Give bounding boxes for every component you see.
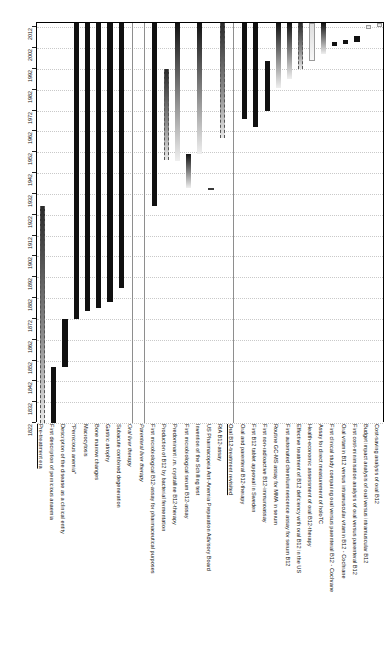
year-tick-label: 1922 — [27, 216, 33, 228]
timeline-bar — [377, 23, 382, 27]
timeline-bar — [85, 23, 90, 311]
year-tick-label-wrap: 1952 — [0, 151, 32, 152]
year-tick-label-wrap: 1942 — [0, 172, 32, 173]
year-tick — [32, 339, 36, 340]
year-tick — [32, 68, 36, 69]
timeline-bar — [220, 23, 225, 138]
year-tick-label-wrap: 1902 — [0, 255, 32, 256]
timeline-bar — [119, 23, 124, 288]
timeline-bar — [186, 154, 191, 187]
gridline — [37, 319, 383, 320]
year-tick-label-wrap: 1832 — [0, 401, 32, 402]
year-tick-label: 2012 — [27, 28, 33, 40]
row-label: Assay for direct measurement of holoTC — [318, 424, 324, 524]
row-label: Oral and parenteral B12-therapy — [240, 424, 246, 504]
timeline-bar — [62, 319, 67, 367]
timeline-bar — [208, 188, 213, 190]
timeline-bar — [175, 23, 180, 161]
year-tick — [32, 26, 36, 27]
year-tick-label: 1822 — [27, 424, 33, 436]
year-tick-label-wrap: 1882 — [0, 297, 32, 298]
timeline-bar — [74, 23, 79, 319]
year-tick-label-wrap: 1862 — [0, 339, 32, 340]
year-tick-label: 1852 — [27, 362, 33, 374]
row-label: Production of B12 by bacterial fermentat… — [161, 424, 167, 531]
year-tick-label-wrap: 1872 — [0, 318, 32, 319]
year-tick-label-wrap: 1852 — [0, 360, 32, 361]
row-label: First microbiological serum B12-assay — [184, 424, 190, 519]
row-label: Invention of the Schilling test — [195, 424, 201, 495]
year-tick-label-wrap: 1932 — [0, 193, 32, 194]
era-separator — [233, 23, 234, 423]
row-label: Subacute combined degeneration — [116, 424, 122, 508]
timeline-bar — [309, 23, 314, 61]
year-tick-label: 1892 — [27, 278, 33, 290]
year-tick-label: 1842 — [27, 382, 33, 394]
year-tick — [32, 172, 36, 173]
timeline-bar — [152, 23, 157, 206]
year-tick-label: 1972 — [27, 112, 33, 124]
row-label: Predominant i.m. crystalline B12-therapy — [172, 424, 178, 525]
row-label: First description of pernicious anaemia — [49, 424, 55, 520]
year-tick-label: 2002 — [27, 49, 33, 61]
row-label: First non-radioactive B12-immunoassay — [262, 424, 268, 523]
row-labels: Pre-treatment eraFirst description of pe… — [36, 424, 384, 646]
year-tick-label: 1902 — [27, 257, 33, 269]
year-tick-label-wrap: 1842 — [0, 380, 32, 381]
row-label: First cost-minimisation analysis of oral… — [352, 424, 358, 575]
row-label: Macrocytosis — [83, 424, 89, 457]
timeline-bar — [265, 61, 270, 111]
year-tick-label: 1982 — [27, 91, 33, 103]
row-label: "Pernicious anemia" — [71, 424, 77, 474]
timeline-bar — [354, 36, 359, 42]
timeline-bar — [197, 23, 202, 154]
year-tick-label-wrap: 1972 — [0, 110, 32, 111]
row-label: Pre-treatment era — [38, 424, 44, 469]
year-tick — [32, 151, 36, 152]
timeline-bar — [298, 23, 303, 69]
year-tick-label: 1882 — [27, 299, 33, 311]
year-tick — [32, 47, 36, 48]
era-separator — [132, 23, 133, 423]
year-tick — [32, 89, 36, 90]
row-label: Budget impact analysis of oral versus in… — [363, 424, 369, 563]
timeline-chart: 2012200219921982197219621952194219321922… — [0, 0, 390, 649]
timeline-bar — [287, 23, 292, 79]
timeline-bar — [366, 25, 371, 29]
gridline — [37, 340, 383, 341]
timeline-bar — [242, 23, 247, 119]
timeline-bar — [164, 69, 169, 161]
row-label: First automated chemiluminescence assay … — [285, 424, 291, 566]
year-tick — [32, 297, 36, 298]
timeline-bar — [51, 367, 56, 423]
row-label: Oral liver therapy — [127, 424, 133, 467]
year-tick-label-wrap: 2002 — [0, 47, 32, 48]
year-tick-label: 1942 — [27, 174, 33, 186]
timeline-bar — [253, 23, 258, 127]
year-tick-label: 1862 — [27, 341, 33, 353]
plot-area — [36, 22, 384, 422]
row-label: Gastric atrophy — [105, 424, 111, 462]
gridline — [37, 381, 383, 382]
timeline-bar — [276, 23, 281, 88]
year-tick — [32, 110, 36, 111]
row-label: Oral B12-treatment revisited — [228, 424, 234, 495]
row-label: Health-economic assessment of oral B12-t… — [307, 424, 313, 547]
row-label: Oral vitamin B12 versus intramuscular vi… — [341, 424, 347, 579]
row-label: Routine GC-MS assay for MMA in serum — [273, 424, 279, 525]
row-label: US Pharmacopeia Anti-Anemia Preparation … — [206, 424, 212, 571]
timeline-bar — [321, 23, 326, 54]
year-tick-label-wrap: 1822 — [0, 422, 32, 423]
year-tick — [32, 360, 36, 361]
row-label: Description of the disease as a clinical… — [60, 424, 66, 534]
year-tick-label-wrap: 2012 — [0, 26, 32, 27]
year-tick-label-wrap: 1992 — [0, 68, 32, 69]
timeline-bar — [40, 206, 45, 423]
row-label: Cost-saving analysis of oral B12 — [374, 424, 380, 504]
row-label: RIA B12-assay — [217, 424, 223, 461]
year-tick-label: 1952 — [27, 153, 33, 165]
era-separator — [144, 23, 145, 423]
year-tick — [32, 422, 36, 423]
timeline-bar — [343, 40, 348, 44]
timeline-bar — [107, 23, 112, 302]
